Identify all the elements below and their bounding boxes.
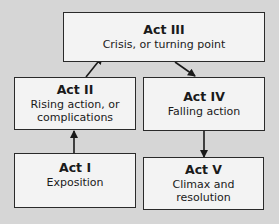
act4-box: Act IV Falling action (143, 77, 265, 131)
act3-title: Act III (143, 22, 184, 38)
act1-description: Exposition (46, 176, 103, 190)
act5-description-line1: Climax and (173, 178, 235, 192)
act2-title: Act II (57, 82, 94, 98)
act4-description: Falling action (168, 105, 241, 119)
act5-description-line2: resolution (176, 191, 231, 205)
act2-description-line1: Rising action, or (30, 98, 119, 112)
act3-description: Crisis, or turning point (103, 38, 226, 52)
act3-box: Act III Crisis, or turning point (63, 12, 265, 62)
act5-title: Act V (185, 162, 222, 178)
act1-title: Act I (59, 160, 91, 176)
act5-box: Act V Climax and resolution (143, 157, 264, 210)
act4-title: Act IV (183, 89, 225, 105)
act2-description-line2: complications (37, 111, 113, 125)
act1-box: Act I Exposition (14, 153, 136, 208)
act2-box: Act II Rising action, or complications (14, 77, 136, 130)
arrow-act3-to-act4 (175, 62, 195, 76)
